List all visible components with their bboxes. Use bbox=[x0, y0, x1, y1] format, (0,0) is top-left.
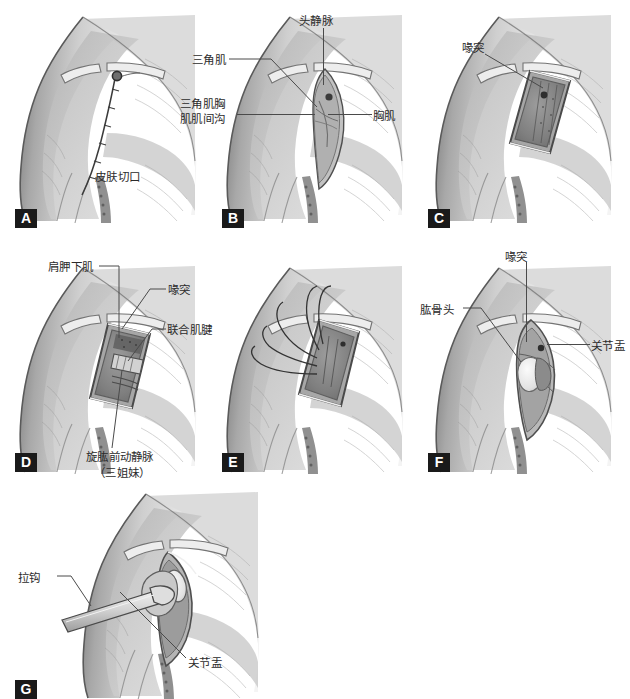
label-coracoid-d: 喙突 bbox=[168, 281, 191, 297]
label-coracoid-f: 喙突 bbox=[505, 248, 528, 264]
leader-humeral-head bbox=[463, 306, 525, 366]
label-deltoid: 三角肌 bbox=[192, 51, 226, 67]
label-circumflex-vessels-sub: （三姐妹） bbox=[94, 464, 151, 480]
label-skin-incision: 皮肤切口 bbox=[95, 168, 140, 184]
leader-glenoid-f bbox=[547, 344, 590, 345]
panel-tag-e: E bbox=[222, 453, 244, 472]
leader-pectoralis bbox=[328, 114, 372, 115]
label-glenoid-g: 关节盂 bbox=[188, 654, 222, 670]
panel-tag-d: D bbox=[15, 453, 37, 472]
panel-g: 拉钩 关节盂 G bbox=[0, 492, 300, 699]
panel-e: 剥离肩胛下肌 E bbox=[207, 248, 419, 483]
panel-c-illustration bbox=[413, 0, 630, 233]
panel-tag-g: G bbox=[15, 680, 37, 699]
leader-coracoid-f bbox=[526, 262, 527, 342]
leader-conjoint-tendon bbox=[126, 327, 170, 369]
label-deltopectoral-groove: 三角肌胸肌肌间沟 bbox=[180, 97, 234, 127]
leader-deltopectoral-groove bbox=[237, 114, 315, 115]
leader-retractor bbox=[57, 574, 97, 614]
leader-glenoid-g bbox=[120, 592, 190, 662]
panel-tag-b: B bbox=[222, 209, 244, 228]
leader-circumflex-vessels bbox=[108, 370, 128, 450]
panel-e-illustration bbox=[207, 248, 419, 483]
panel-b: 头静脉 三角肌 三角肌胸肌肌间沟 胸肌 B bbox=[207, 0, 419, 233]
label-glenoid-f: 关节盂 bbox=[591, 337, 625, 353]
label-cephalic-vein: 头静脉 bbox=[299, 12, 333, 28]
panel-a: 皮肤切口 A bbox=[0, 0, 210, 233]
label-circumflex-vessels: 旋肱前动静脉 bbox=[86, 448, 154, 464]
panel-f: 喙突 肱骨头 关节盂 F bbox=[413, 248, 630, 483]
label-humeral-head: 肱骨头 bbox=[420, 301, 454, 317]
label-conjoint-tendon: 联合肌腱 bbox=[167, 321, 212, 337]
panel-c: 喙突 C bbox=[413, 0, 630, 233]
leader-deltoid bbox=[229, 57, 329, 117]
panel-tag-f: F bbox=[428, 453, 450, 472]
panel-tag-c: C bbox=[428, 209, 450, 228]
label-retractor: 拉钩 bbox=[18, 569, 41, 585]
panel-d: 肩胛下肌 喙突 联合肌腱 旋肱前动静脉 （三姐妹） D bbox=[0, 248, 210, 483]
label-subscapularis: 肩胛下肌 bbox=[48, 258, 93, 274]
panel-a-illustration bbox=[0, 0, 210, 233]
label-pectoralis: 胸肌 bbox=[373, 107, 396, 123]
panel-tag-a: A bbox=[15, 209, 37, 228]
leader-coracoid bbox=[485, 54, 555, 98]
label-coracoid: 喙突 bbox=[462, 39, 485, 55]
